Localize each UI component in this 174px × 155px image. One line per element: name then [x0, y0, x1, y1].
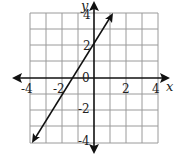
y-tick-label-neg2: -2 — [78, 102, 90, 116]
x-tick-label-4: 4 — [152, 82, 160, 96]
x-tick-label-2: 2 — [122, 82, 130, 96]
y-tick-label-2: 2 — [83, 39, 91, 53]
coordinate-plane: y x 0 -4 -2 2 4 4 2 -2 -4 — [0, 0, 174, 155]
y-tick-label-4: 4 — [83, 8, 91, 22]
line-upper-arrow-icon — [105, 13, 113, 23]
x-tick-label-neg2: -2 — [53, 82, 65, 96]
origin-label: 0 — [82, 71, 90, 85]
x-axis-label: x — [166, 79, 174, 94]
x-tick-label-neg4: -4 — [21, 82, 33, 96]
y-tick-label-neg4: -4 — [78, 134, 90, 148]
line-lower-arrow-icon — [32, 133, 40, 143]
